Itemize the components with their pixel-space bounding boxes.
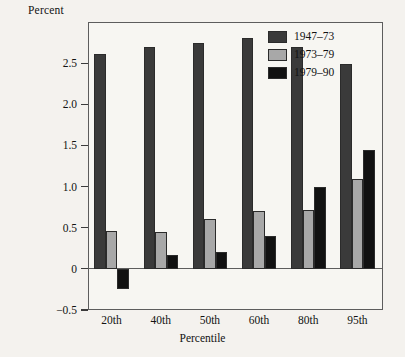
bar	[303, 210, 315, 269]
bar	[155, 232, 167, 269]
y-axis-tick-mark	[81, 145, 88, 146]
legend-item: 1979–90	[268, 66, 334, 79]
y-axis-tick-label: 1.0	[63, 181, 81, 193]
bar	[216, 252, 228, 269]
bar	[265, 236, 277, 269]
bar	[340, 64, 352, 269]
legend-swatch	[268, 49, 287, 61]
y-axis-tick-mark	[81, 104, 88, 105]
bar	[106, 231, 118, 269]
bar	[167, 255, 179, 269]
bar	[242, 38, 254, 269]
bar	[253, 211, 265, 269]
legend-label: 1979–90	[294, 67, 334, 79]
bar	[144, 47, 156, 269]
chart-legend: 1947–731973–791979–90	[268, 30, 334, 79]
bar	[291, 47, 303, 269]
bar	[363, 150, 375, 268]
chart-figure: Percent −0.500.51.01.52.02.5 20th40th50t…	[0, 0, 405, 357]
y-axis-tick-mark	[81, 309, 88, 310]
x-axis-tick-label: 40th	[151, 314, 171, 326]
bar-group	[193, 22, 228, 310]
y-axis-tick-label: 2.5	[63, 57, 81, 69]
plot-area: −0.500.51.01.52.02.5	[88, 22, 383, 310]
legend-item: 1973–79	[268, 48, 334, 61]
legend-swatch	[268, 67, 287, 79]
y-axis-tick: 0.5	[63, 222, 88, 234]
bar	[352, 179, 364, 269]
bar	[314, 187, 326, 269]
x-axis-title: Percentile	[0, 332, 405, 344]
bar	[204, 219, 216, 268]
legend-label: 1973–79	[294, 49, 334, 61]
y-axis-tick-label: 0.5	[63, 222, 81, 234]
y-axis-title: Percent	[28, 4, 64, 16]
y-axis-tick-mark	[81, 268, 88, 269]
x-axis-tick-label: 50th	[200, 314, 220, 326]
y-axis-tick-label: 0	[71, 263, 81, 275]
bar	[117, 269, 129, 290]
y-axis-tick: 1.0	[63, 181, 88, 193]
y-axis-tick: 0	[71, 263, 88, 275]
legend-item: 1947–73	[268, 30, 334, 43]
bar-group	[144, 22, 179, 310]
bar-group	[340, 22, 375, 310]
x-axis-tick-label: 60th	[249, 314, 269, 326]
y-axis-tick-mark	[81, 63, 88, 64]
y-axis-tick: 2.0	[63, 98, 88, 110]
bar	[94, 54, 106, 269]
y-axis-tick-mark	[81, 186, 88, 187]
zero-baseline	[88, 268, 383, 269]
y-axis-tick-label: 1.5	[63, 139, 81, 151]
legend-label: 1947–73	[294, 31, 334, 43]
x-axis-tick-label: 95th	[347, 314, 367, 326]
y-axis-tick: 1.5	[63, 139, 88, 151]
y-axis-tick-label: 2.0	[63, 98, 81, 110]
bar-group	[94, 22, 129, 310]
bar	[193, 43, 205, 269]
legend-swatch	[268, 31, 287, 43]
x-axis-tick-label: 20th	[101, 314, 121, 326]
y-axis-tick: 2.5	[63, 57, 88, 69]
y-axis-tick: −0.5	[56, 304, 88, 316]
y-axis-tick-label: −0.5	[56, 304, 81, 316]
x-axis-tick-label: 80th	[298, 314, 318, 326]
y-axis-tick-mark	[81, 227, 88, 228]
